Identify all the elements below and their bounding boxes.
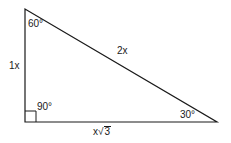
side-label-bottom-radicand: 3: [104, 126, 112, 137]
triangle-outline: [25, 9, 217, 122]
angle-label-right-angle: 90°: [37, 102, 52, 112]
right-angle-marker: [25, 111, 36, 122]
square-root-symbol: √3: [98, 126, 111, 137]
angle-label-bottom-right: 30°: [180, 110, 195, 120]
angle-label-top: 60°: [28, 19, 43, 29]
side-label-bottom: x√3: [93, 126, 111, 137]
side-label-hypotenuse: 2x: [117, 46, 128, 56]
side-label-left: 1x: [9, 61, 20, 71]
